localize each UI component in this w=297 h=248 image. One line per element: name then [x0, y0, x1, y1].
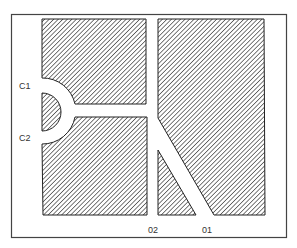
label-c2: C2	[19, 133, 31, 143]
label-02: 02	[148, 225, 158, 235]
label-c1: C1	[19, 81, 31, 91]
label-01: 01	[202, 225, 212, 235]
channel-layout-diagram: C1 C2 02 01	[0, 0, 297, 248]
